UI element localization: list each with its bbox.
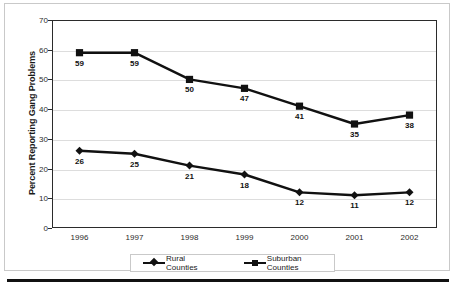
y-tick-mark (48, 228, 52, 229)
y-tick-mark (48, 20, 52, 21)
y-tick-mark (48, 50, 52, 51)
data-point-label: 21 (176, 172, 204, 181)
data-point-label: 18 (231, 181, 259, 190)
data-point-label: 26 (66, 157, 94, 166)
y-tick-label: 70 (28, 16, 48, 25)
x-tick-label: 1998 (167, 233, 213, 242)
data-point-label: 47 (231, 94, 259, 103)
y-tick-label: 50 (28, 75, 48, 84)
footer-rule (7, 279, 449, 282)
x-tick-label: 2000 (277, 233, 323, 242)
y-tick-label: 10 (28, 194, 48, 203)
gridline (53, 170, 436, 171)
data-point-label: 35 (341, 130, 369, 139)
y-tick-label: 40 (28, 105, 48, 114)
y-tick-mark (48, 139, 52, 140)
x-tick-label: 2002 (387, 233, 433, 242)
data-point-label: 59 (121, 59, 149, 68)
plot-area (52, 20, 437, 228)
chart-legend: Rural Counties Suburban Counties (130, 254, 335, 272)
x-tick-label: 2001 (332, 233, 378, 242)
data-point-label: 12 (396, 198, 424, 207)
diamond-marker-icon (143, 258, 165, 268)
x-tick-label: 1999 (222, 233, 268, 242)
y-tick-label: 30 (28, 134, 48, 143)
data-point-label: 12 (286, 198, 314, 207)
legend-label-rural-counties: Rural Counties (166, 254, 218, 272)
y-tick-mark (48, 169, 52, 170)
x-tick-label: 1996 (57, 233, 103, 242)
legend-label-suburban-counties: Suburban Counties (267, 254, 334, 272)
y-tick-label: 20 (28, 164, 48, 173)
data-point-label: 59 (66, 59, 94, 68)
data-point-label: 50 (176, 85, 204, 94)
gridline (53, 80, 436, 81)
data-point-label: 41 (286, 112, 314, 121)
data-point-label: 11 (341, 201, 369, 210)
y-tick-label: 60 (28, 45, 48, 54)
legend-item-rural-counties[interactable]: Rural Counties (143, 254, 218, 272)
data-point-label: 25 (121, 160, 149, 169)
chart-figure: Percent Reporting Gang Problems 01020304… (0, 0, 456, 293)
gridline (53, 199, 436, 200)
y-tick-mark (48, 109, 52, 110)
y-tick-mark (48, 198, 52, 199)
gridline (53, 140, 436, 141)
y-tick-label: 0 (28, 224, 48, 233)
y-tick-mark (48, 79, 52, 80)
data-point-label: 38 (396, 121, 424, 130)
gridline (53, 51, 436, 52)
gridline (53, 110, 436, 111)
square-marker-icon (244, 258, 266, 268)
x-tick-label: 1997 (112, 233, 158, 242)
legend-item-suburban-counties[interactable]: Suburban Counties (244, 254, 334, 272)
